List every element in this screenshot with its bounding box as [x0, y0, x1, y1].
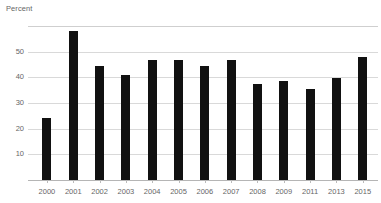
- x-tick-mark: [257, 180, 258, 183]
- plot-area: 1020304050 20002001200220032004200520062…: [0, 0, 381, 203]
- y-tick-label-50: 50: [0, 48, 24, 56]
- bar[interactable]: [253, 84, 262, 180]
- bar[interactable]: [95, 66, 104, 180]
- x-tick-mark: [363, 180, 364, 183]
- bar-chart: Percent 1020304050 200020012002200320042…: [0, 0, 381, 203]
- y-tick-label-20: 20: [0, 125, 24, 133]
- x-tick-mark: [284, 180, 285, 183]
- bar[interactable]: [200, 66, 209, 180]
- x-axis-line: [28, 180, 378, 181]
- gridline-top: [28, 26, 378, 27]
- y-tick-label-10: 10: [0, 150, 24, 158]
- y-tick-label-30: 30: [0, 99, 24, 107]
- bar[interactable]: [227, 60, 236, 180]
- bar[interactable]: [121, 75, 130, 180]
- x-tick-mark: [336, 180, 337, 183]
- gridline-50: [28, 52, 378, 53]
- bar[interactable]: [358, 57, 367, 180]
- bar[interactable]: [148, 60, 157, 180]
- x-tick-mark: [100, 180, 101, 183]
- x-tick-mark: [231, 180, 232, 183]
- bar[interactable]: [174, 60, 183, 180]
- bar[interactable]: [69, 31, 78, 180]
- x-tick-label-2015: 2015: [348, 188, 378, 196]
- x-tick-mark: [47, 180, 48, 183]
- x-tick-mark: [73, 180, 74, 183]
- x-tick-mark: [126, 180, 127, 183]
- bar[interactable]: [306, 89, 315, 180]
- x-tick-mark: [310, 180, 311, 183]
- bar[interactable]: [279, 81, 288, 180]
- x-tick-mark: [152, 180, 153, 183]
- x-tick-mark: [179, 180, 180, 183]
- x-tick-mark: [205, 180, 206, 183]
- bar[interactable]: [42, 118, 51, 180]
- y-tick-label-40: 40: [0, 73, 24, 81]
- bar[interactable]: [332, 78, 341, 180]
